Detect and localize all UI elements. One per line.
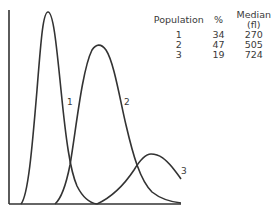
header-population: Population: [150, 10, 208, 30]
header-percent: %: [208, 10, 230, 30]
curve-population-2: [55, 45, 181, 204]
population-table: Population % Median (fl) 1 34 270 2 47 5…: [150, 10, 278, 60]
table-row: 3 19 724: [150, 50, 278, 60]
curve-label-2: 2: [124, 97, 130, 107]
curve-population-3: [97, 154, 181, 204]
header-median: Median (fl): [230, 10, 278, 30]
curve-population-1: [21, 12, 97, 204]
curve-label-1: 1: [67, 97, 73, 107]
curve-label-3: 3: [181, 166, 187, 176]
